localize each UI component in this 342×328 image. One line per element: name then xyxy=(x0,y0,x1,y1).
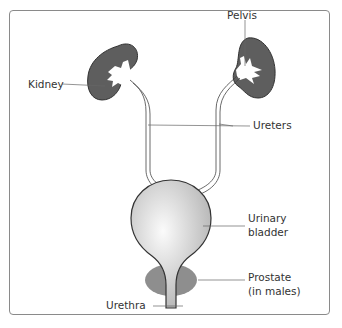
urinary-bladder xyxy=(131,180,211,308)
label-kidney: Kidney xyxy=(28,78,64,91)
label-pelvis: Pelvis xyxy=(227,9,257,22)
label-prostate-2: (in males) xyxy=(248,285,301,298)
label-bladder-2: bladder xyxy=(248,226,288,239)
leader-lines xyxy=(62,20,250,306)
right-kidney xyxy=(233,38,275,98)
left-kidney xyxy=(88,44,138,100)
label-prostate-1: Prostate xyxy=(248,271,291,284)
label-urethra: Urethra xyxy=(106,299,146,312)
label-bladder-1: Urinary xyxy=(248,212,287,225)
ureters xyxy=(130,76,240,196)
label-ureters: Ureters xyxy=(253,119,292,132)
